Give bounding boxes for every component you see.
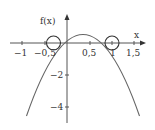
x-axis-arrow-icon	[140, 41, 146, 46]
x-tick-label-1: 1	[110, 48, 116, 58]
x-tick-label-15: 1,5	[126, 48, 141, 58]
x-tick-label-m05: −0,5	[34, 48, 56, 58]
function-plot: f(x) x −1 −0,5 0,5 1 1,5 −2 −4	[0, 0, 155, 130]
x-tick-label-05: 0,5	[82, 48, 97, 58]
y-axis-arrow-icon	[65, 14, 70, 20]
y-tick-label-m2: −2	[50, 70, 63, 80]
x-axis-label: x	[134, 30, 139, 40]
y-axis-label: f(x)	[40, 16, 55, 26]
y-tick-label-m4: −4	[50, 102, 64, 112]
x-tick-label-m1: −1	[14, 48, 27, 58]
parabola-curve	[27, 35, 140, 117]
